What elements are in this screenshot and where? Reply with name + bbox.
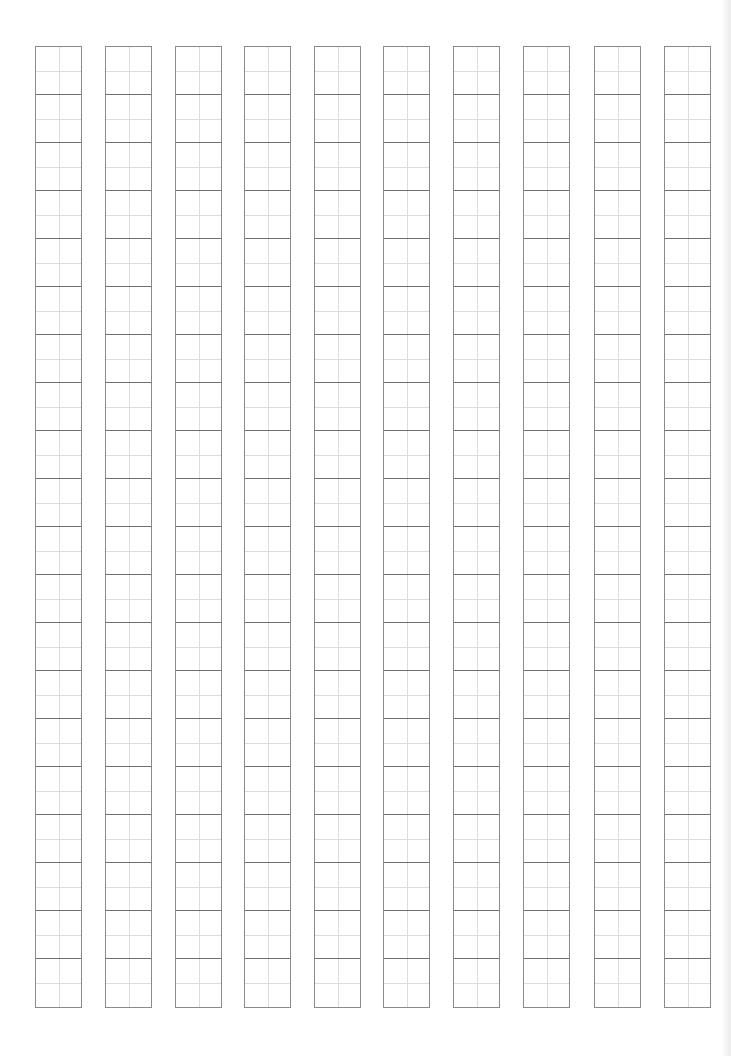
horizontal-guide-line [524, 647, 569, 648]
horizontal-guide-line [454, 119, 499, 120]
horizontal-guide-line [176, 647, 221, 648]
horizontal-guide-line [315, 455, 360, 456]
grid-cell [245, 383, 290, 431]
grid-cell [665, 767, 710, 815]
grid-cell [245, 479, 290, 527]
horizontal-guide-line [595, 599, 640, 600]
horizontal-guide-line [315, 743, 360, 744]
horizontal-guide-line [384, 695, 429, 696]
grid-cell [245, 191, 290, 239]
horizontal-guide-line [665, 887, 710, 888]
grid-cell [176, 575, 221, 623]
horizontal-guide-line [245, 455, 290, 456]
grid-cell [665, 671, 710, 719]
horizontal-guide-line [245, 215, 290, 216]
grid-cell [245, 527, 290, 575]
grid-cell [524, 671, 569, 719]
horizontal-guide-line [384, 839, 429, 840]
grid-cell [315, 671, 360, 719]
grid-cell [454, 47, 499, 95]
grid-cell [176, 719, 221, 767]
horizontal-guide-line [454, 359, 499, 360]
grid-cell [176, 191, 221, 239]
horizontal-guide-line [665, 551, 710, 552]
grid-cell [454, 767, 499, 815]
grid-cell [524, 431, 569, 479]
horizontal-guide-line [245, 839, 290, 840]
horizontal-guide-line [176, 839, 221, 840]
grid-cell [665, 95, 710, 143]
horizontal-guide-line [524, 791, 569, 792]
grid-cell [384, 623, 429, 671]
grid-cell [524, 479, 569, 527]
horizontal-guide-line [106, 119, 151, 120]
horizontal-guide-line [665, 119, 710, 120]
grid-cell [665, 383, 710, 431]
grid-cell [36, 143, 81, 191]
horizontal-guide-line [384, 167, 429, 168]
grid-cell [176, 383, 221, 431]
grid-cell [106, 335, 151, 383]
grid-cell [384, 575, 429, 623]
horizontal-guide-line [524, 599, 569, 600]
grid-cell [384, 767, 429, 815]
grid-cell [176, 863, 221, 911]
horizontal-guide-line [176, 311, 221, 312]
grid-cell [176, 431, 221, 479]
horizontal-guide-line [595, 119, 640, 120]
grid-cell [524, 527, 569, 575]
grid-cell [315, 527, 360, 575]
grid-cell [106, 143, 151, 191]
horizontal-guide-line [524, 119, 569, 120]
horizontal-guide-line [454, 71, 499, 72]
grid-cell [36, 335, 81, 383]
horizontal-guide-line [315, 407, 360, 408]
horizontal-guide-line [384, 215, 429, 216]
horizontal-guide-line [454, 887, 499, 888]
grid-cell [245, 959, 290, 1007]
horizontal-guide-line [454, 503, 499, 504]
horizontal-guide-line [245, 263, 290, 264]
grid-cell [106, 239, 151, 287]
horizontal-guide-line [524, 215, 569, 216]
grid-cell [384, 239, 429, 287]
horizontal-guide-line [36, 167, 81, 168]
grid-cell [36, 479, 81, 527]
horizontal-guide-line [454, 647, 499, 648]
horizontal-guide-line [384, 455, 429, 456]
horizontal-guide-line [245, 599, 290, 600]
grid-cell [454, 143, 499, 191]
horizontal-guide-line [176, 215, 221, 216]
grid-cell [665, 191, 710, 239]
horizontal-guide-line [454, 551, 499, 552]
scan-edge-shadow [721, 0, 731, 1056]
grid-cell [454, 287, 499, 335]
grid-cell [454, 863, 499, 911]
horizontal-guide-line [106, 743, 151, 744]
horizontal-guide-line [245, 407, 290, 408]
horizontal-guide-line [36, 311, 81, 312]
horizontal-guide-line [106, 407, 151, 408]
grid-cell [176, 767, 221, 815]
horizontal-guide-line [384, 647, 429, 648]
grid-cell [524, 719, 569, 767]
grid-cell [665, 719, 710, 767]
grid-column-4 [244, 46, 291, 1008]
horizontal-guide-line [384, 119, 429, 120]
horizontal-guide-line [245, 887, 290, 888]
grid-cell [665, 143, 710, 191]
grid-cell [524, 95, 569, 143]
grid-cell [245, 143, 290, 191]
grid-cell [595, 239, 640, 287]
horizontal-guide-line [36, 647, 81, 648]
grid-cell [454, 719, 499, 767]
grid-cell [36, 911, 81, 959]
horizontal-guide-line [454, 743, 499, 744]
grid-cell [106, 287, 151, 335]
horizontal-guide-line [595, 455, 640, 456]
horizontal-guide-line [315, 503, 360, 504]
grid-cell [454, 383, 499, 431]
grid-cell [176, 623, 221, 671]
grid-cell [245, 911, 290, 959]
horizontal-guide-line [36, 407, 81, 408]
